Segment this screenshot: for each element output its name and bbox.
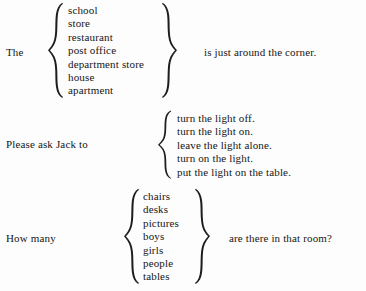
frame-lead-in-text: How many bbox=[6, 232, 56, 245]
list-item[interactable]: pictures bbox=[143, 217, 179, 230]
substitution-frame: The school store restaurant post office … bbox=[0, 0, 366, 105]
list-item[interactable]: girls bbox=[143, 244, 179, 257]
list-item[interactable]: apartment bbox=[68, 84, 144, 97]
frame-tail-text: is just around the corner. bbox=[204, 46, 316, 59]
frame-lead-in-text: The bbox=[6, 46, 24, 59]
list-item[interactable]: turn on the light. bbox=[177, 152, 291, 165]
list-item[interactable]: chairs bbox=[143, 190, 179, 203]
list-item[interactable]: restaurant bbox=[68, 31, 144, 44]
option-list: chairs desks pictures boys girls people … bbox=[143, 190, 179, 284]
list-item[interactable]: school bbox=[68, 4, 144, 17]
frame-tail-text: are there in that room? bbox=[229, 232, 332, 245]
list-item[interactable]: boys bbox=[143, 230, 179, 243]
option-list: school store restaurant post office depa… bbox=[68, 4, 144, 98]
option-list: turn the light off. turn the light on. l… bbox=[177, 112, 291, 179]
frame-lead-in-text: Please ask Jack to bbox=[6, 138, 88, 151]
left-curly-brace-icon bbox=[124, 188, 141, 287]
list-item[interactable]: turn the light off. bbox=[177, 112, 291, 125]
list-item[interactable]: house bbox=[68, 71, 144, 84]
worksheet-page: The school store restaurant post office … bbox=[0, 0, 366, 291]
list-item[interactable]: turn the light on. bbox=[177, 125, 291, 138]
list-item[interactable]: people bbox=[143, 257, 179, 270]
substitution-frame: Please ask Jack to turn the light off. t… bbox=[0, 110, 366, 188]
list-item[interactable]: department store bbox=[68, 58, 144, 71]
list-item[interactable]: tables bbox=[143, 270, 179, 283]
list-item[interactable]: post office bbox=[68, 44, 144, 57]
right-curly-brace-icon bbox=[160, 2, 177, 101]
right-curly-brace-icon bbox=[193, 188, 210, 287]
list-item[interactable]: store bbox=[68, 17, 144, 30]
list-item[interactable]: put the light on the table. bbox=[177, 166, 291, 179]
substitution-frame: How many chairs desks pictures boys girl… bbox=[0, 188, 366, 291]
list-item[interactable]: desks bbox=[143, 203, 179, 216]
left-curly-brace-icon bbox=[48, 2, 65, 101]
list-item[interactable]: leave the light alone. bbox=[177, 139, 291, 152]
left-curly-brace-icon bbox=[158, 110, 173, 181]
